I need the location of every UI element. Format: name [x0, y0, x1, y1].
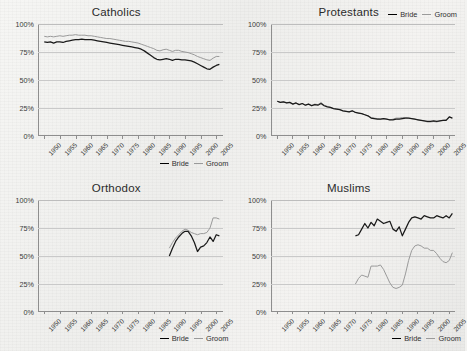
y-axis-label: 100% — [16, 20, 34, 29]
series-layer — [38, 200, 223, 312]
x-axis-tick — [107, 136, 108, 139]
x-axis-tick — [185, 136, 186, 139]
x-axis-tick — [91, 136, 92, 139]
y-axis-label: 100% — [248, 20, 266, 29]
x-axis-label: 1970 — [342, 141, 357, 156]
chart-title: Orthodox — [0, 182, 233, 194]
x-axis-label: 1960 — [311, 141, 326, 156]
legend-item-bride: Bride — [160, 334, 189, 343]
x-axis-label: 1960 — [311, 317, 326, 332]
x-axis-label: 1955 — [63, 141, 78, 156]
x-axis-tick — [308, 136, 309, 139]
y-axis-label: 25% — [20, 279, 34, 288]
x-axis-label: 1950 — [47, 317, 62, 332]
chart-legend: BrideGroom — [160, 334, 229, 343]
x-axis-tick — [355, 136, 356, 139]
x-axis-label: 1965 — [327, 317, 342, 332]
x-axis-tick — [324, 136, 325, 139]
x-axis-tick — [433, 312, 434, 315]
x-axis-label: 1975 — [358, 141, 373, 156]
y-axis-label: 75% — [20, 48, 34, 57]
x-axis-label: 1955 — [295, 141, 310, 156]
y-axis-label: 100% — [248, 195, 266, 204]
x-axis-tick — [417, 312, 418, 315]
y-axis-label: 25% — [252, 279, 266, 288]
x-axis-tick — [154, 136, 155, 139]
y-axis-label: 25% — [20, 104, 34, 113]
x-axis-tick — [216, 312, 217, 315]
x-axis-label: 1950 — [280, 317, 295, 332]
series-layer — [271, 200, 456, 312]
legend-item-groom: Groom — [422, 10, 457, 19]
x-axis-label: 1980 — [141, 141, 156, 156]
x-axis-label: 1985 — [157, 141, 172, 156]
x-axis-tick — [201, 136, 202, 139]
x-axis-label: 1960 — [78, 141, 93, 156]
x-axis-tick — [201, 312, 202, 315]
x-axis-tick — [292, 136, 293, 139]
x-axis-tick — [449, 312, 450, 315]
legend-label: Groom — [206, 334, 229, 343]
legend-swatch-bride-icon — [160, 338, 169, 339]
legend-label: Bride — [404, 334, 421, 343]
x-axis-tick — [355, 312, 356, 315]
y-axis-label: 75% — [252, 223, 266, 232]
x-axis-label: 1975 — [125, 317, 140, 332]
chart-legend: BrideGroom — [160, 159, 229, 168]
legend-swatch-bride-icon — [388, 14, 397, 15]
x-axis-label: 2005 — [452, 141, 467, 156]
series-layer — [271, 24, 456, 136]
x-axis-label: 1990 — [405, 141, 420, 156]
x-axis-tick — [76, 312, 77, 315]
x-axis-tick — [154, 312, 155, 315]
y-axis-label: 25% — [252, 104, 266, 113]
x-axis-tick — [76, 136, 77, 139]
legend-label: Bride — [172, 334, 189, 343]
y-axis-label: 50% — [20, 76, 34, 85]
series-layer — [38, 24, 223, 136]
x-axis-label: 1980 — [373, 317, 388, 332]
y-axis-label: 0% — [256, 132, 266, 141]
x-axis-label: 1985 — [389, 317, 404, 332]
x-axis-tick — [169, 312, 170, 315]
legend-item-groom: Groom — [194, 334, 229, 343]
chart-title: Muslims — [233, 182, 466, 194]
series-line-groom — [355, 244, 452, 288]
legend-item-groom: Groom — [194, 159, 229, 168]
x-axis-tick — [371, 136, 372, 139]
chart-panel-protestants: Protestants 100%75%50%25%0%1950195519601… — [233, 0, 466, 176]
x-axis-label: 1965 — [327, 141, 342, 156]
x-axis-label: 1955 — [63, 317, 78, 332]
x-axis-label: 2000 — [203, 141, 218, 156]
x-axis-label: 1970 — [342, 317, 357, 332]
series-line-bride — [355, 213, 452, 235]
y-axis-label: 50% — [20, 251, 34, 260]
x-axis-tick — [386, 312, 387, 315]
legend-item-bride: Bride — [160, 159, 189, 168]
chart-area: 100%75%50%25%0%1950195519601965197019751… — [38, 200, 223, 312]
x-axis-label: 1995 — [420, 141, 435, 156]
x-axis-label: 1995 — [188, 141, 203, 156]
chart-panel-orthodox: Orthodox 100%75%50%25%0%1950195519601965… — [0, 176, 233, 351]
x-axis-label: 1970 — [110, 141, 125, 156]
x-axis-label: 1975 — [125, 141, 140, 156]
chart-legend: BrideGroom — [388, 10, 457, 19]
legend-swatch-bride-icon — [392, 338, 401, 339]
legend-item-bride: Bride — [388, 10, 417, 19]
legend-swatch-groom-icon — [194, 338, 203, 339]
x-axis-tick — [417, 136, 418, 139]
chart-area: 100%75%50%25%0%1950195519601965197019751… — [271, 24, 456, 136]
x-axis-tick — [216, 136, 217, 139]
y-axis-label: 75% — [252, 48, 266, 57]
x-axis-tick — [138, 136, 139, 139]
y-axis-label: 75% — [20, 223, 34, 232]
series-line-bride — [277, 101, 452, 121]
x-axis-label: 1950 — [47, 141, 62, 156]
x-axis-tick — [107, 312, 108, 315]
x-axis-tick — [44, 136, 45, 139]
x-axis-tick — [185, 312, 186, 315]
x-axis-tick — [339, 312, 340, 315]
legend-item-groom: Groom — [426, 334, 461, 343]
legend-swatch-groom-icon — [194, 163, 203, 164]
